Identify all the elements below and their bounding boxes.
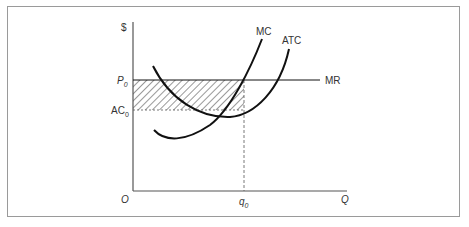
atc-label: ATC [282,35,301,46]
mr-label: MR [325,75,341,86]
p0-label: P0 [117,75,128,88]
mc-label: MC [256,26,272,37]
origin-label: O [121,194,129,205]
x-axis-label: Q [341,194,349,205]
profit-diagram: $ Q O MC ATC MR P0 AC0 q0 [0,0,469,227]
q0-label: q0 [239,196,249,209]
y-axis-label: $ [121,22,127,33]
ac0-label: AC0 [111,105,129,118]
